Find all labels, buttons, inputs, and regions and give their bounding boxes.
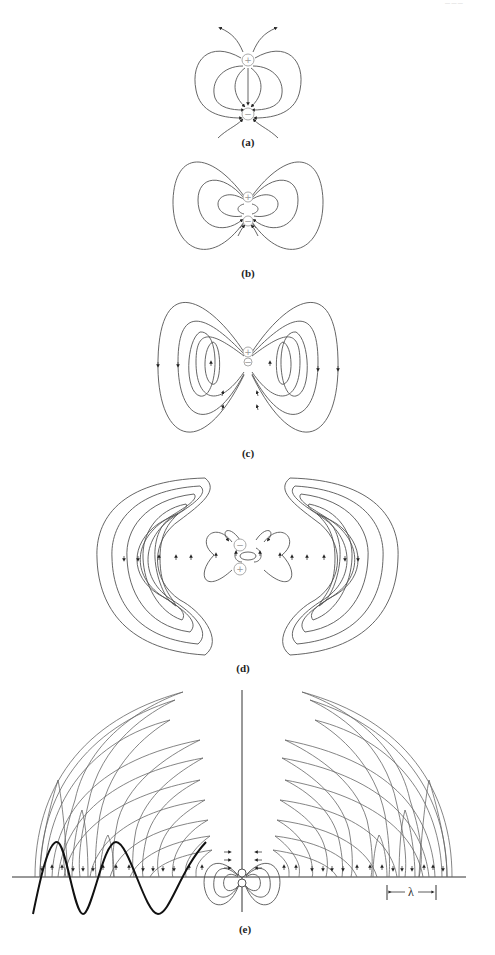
svg-text:+: + bbox=[244, 347, 252, 357]
panel-label-d: (d) bbox=[236, 662, 250, 675]
panel-a: + − (a) bbox=[195, 28, 301, 149]
svg-text:−: − bbox=[244, 109, 252, 119]
field-wave bbox=[33, 842, 206, 914]
svg-text:+: + bbox=[244, 192, 252, 202]
corner-mark: — — — bbox=[445, 0, 463, 6]
svg-text:−: − bbox=[244, 357, 252, 367]
svg-text:+: + bbox=[236, 564, 244, 574]
panel-e: λ (e) bbox=[12, 690, 466, 936]
dipole-radiation-figure: — — — + − (a) bbox=[0, 0, 495, 955]
panel-c: + − (c) bbox=[158, 302, 338, 460]
panel-label-c: (c) bbox=[242, 447, 255, 460]
right-radiation-lobes bbox=[273, 692, 452, 877]
wavelength-label: λ bbox=[408, 885, 414, 899]
panel-label-e: (e) bbox=[239, 923, 252, 936]
panel-label-b: (b) bbox=[241, 267, 255, 280]
svg-text:−: − bbox=[236, 540, 244, 550]
panel-b: + − (b) bbox=[173, 162, 323, 280]
panel-label-a: (a) bbox=[242, 136, 255, 149]
panel-d: − + (d) bbox=[97, 478, 398, 675]
wavelength-marker: λ bbox=[387, 885, 436, 900]
svg-text:+: + bbox=[244, 55, 252, 65]
svg-text:−: − bbox=[244, 216, 252, 226]
